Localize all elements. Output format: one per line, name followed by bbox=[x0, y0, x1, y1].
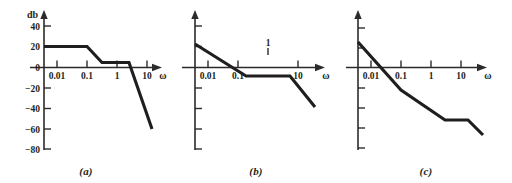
x-axis-title-a: ω bbox=[159, 70, 166, 81]
y-axis-title-a: db bbox=[27, 9, 39, 20]
x-tick-label-1-b: 1 bbox=[266, 38, 271, 48]
y-tick-label-neg80-a: −80 bbox=[25, 145, 40, 155]
plot-c-canvas: 0.01 0.1 1 10 ω bbox=[340, 0, 512, 155]
x-tick-label-001-b: 0.01 bbox=[200, 71, 217, 81]
y-axis-arrowhead-c bbox=[354, 10, 361, 19]
plot-panel-a: 40 20 0 −20 −40 −60 −80 0.01 0.1 1 10 db… bbox=[0, 0, 172, 183]
panel-caption-b: (b) bbox=[170, 165, 342, 177]
x-axis-title-c: ω bbox=[484, 70, 491, 81]
y-tick-label-neg20-a: −20 bbox=[25, 84, 40, 94]
y-tick-label-neg60-a: −60 bbox=[25, 125, 40, 135]
y-tick-label-40-a: 40 bbox=[31, 22, 41, 32]
x-tick-label-001-c: 0.01 bbox=[363, 71, 380, 81]
y-axis-arrowhead-b bbox=[191, 10, 198, 19]
panel-caption-a: (a) bbox=[0, 165, 172, 177]
x-tick-label-1-c: 1 bbox=[429, 71, 434, 81]
plot-panel-c: 0.01 0.1 1 10 ω (c) bbox=[340, 0, 512, 183]
magnitude-curve-a bbox=[44, 47, 152, 130]
plot-b-canvas: 0.01 0.1 1 10 ω bbox=[170, 0, 342, 155]
x-tick-label-1-a: 1 bbox=[115, 71, 120, 81]
y-axis-arrowhead-a bbox=[40, 10, 47, 19]
y-tick-label-neg40-a: −40 bbox=[25, 104, 40, 114]
x-axis-title-b: ω bbox=[322, 70, 329, 81]
x-tick-label-01-c: 0.1 bbox=[395, 71, 407, 81]
bode-plot-figure: 40 20 0 −20 −40 −60 −80 0.01 0.1 1 10 db… bbox=[0, 0, 512, 183]
x-tick-label-01-b: 0.1 bbox=[232, 71, 244, 81]
panel-caption-c: (c) bbox=[340, 165, 512, 177]
y-tick-label-20-a: 20 bbox=[31, 42, 41, 52]
x-tick-label-10-c: 10 bbox=[456, 71, 466, 81]
y-tick-label-0-a: 0 bbox=[35, 63, 40, 73]
x-tick-label-10-b: 10 bbox=[293, 71, 303, 81]
x-tick-label-10-a: 10 bbox=[142, 71, 152, 81]
x-tick-label-01-a: 0.1 bbox=[81, 71, 93, 81]
magnitude-curve-c bbox=[358, 42, 483, 135]
plot-panel-b: 0.01 0.1 1 10 ω (b) bbox=[170, 0, 342, 183]
x-tick-label-001-a: 0.01 bbox=[49, 71, 66, 81]
plot-a-canvas: 40 20 0 −20 −40 −60 −80 0.01 0.1 1 10 db… bbox=[0, 0, 172, 155]
